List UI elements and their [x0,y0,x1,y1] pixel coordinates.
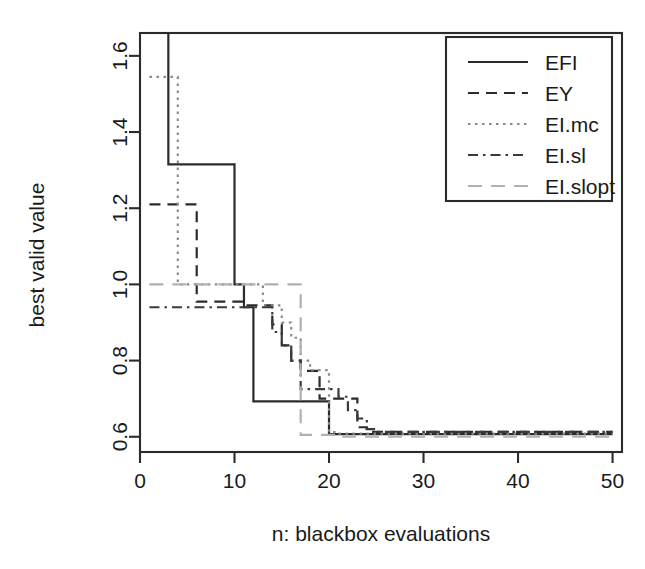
legend-label-efi: EFI [545,51,578,74]
y-tick-label: 0.8 [109,346,132,375]
legend-label-ey: EY [545,82,573,105]
y-tick-label: 1.2 [109,194,132,223]
x-tick-label: 50 [601,469,624,492]
legend-label-ei-slopt: EI.slopt [545,175,615,198]
y-tick-label: 1.6 [109,41,132,70]
x-axis-ticks [140,452,613,463]
x-tick-label: 0 [134,469,146,492]
line-chart: 0.60.81.01.21.41.6 01020304050 n: blackb… [0,0,645,569]
series-line-ei-sl [149,307,612,432]
x-tick-label: 30 [412,469,435,492]
chart-legend: EFIEYEI.mcEI.slEI.slopt [446,37,615,201]
chart-figure: 0.60.81.01.21.41.6 01020304050 n: blackb… [0,0,645,569]
y-axis-title: best valid value [25,183,48,328]
x-axis-title: n: blackbox evaluations [272,522,490,545]
legend-label-ei-mc: EI.mc [545,113,599,136]
legend-label-ei-sl: EI.sl [545,144,586,167]
y-tick-label: 1.4 [109,117,132,147]
y-axis-ticks [129,56,140,437]
series-line-ey [149,204,612,431]
x-axis-tick-labels: 01020304050 [134,469,624,492]
y-tick-label: 0.6 [109,422,132,451]
x-tick-label: 10 [223,469,246,492]
y-axis-tick-labels: 0.60.81.01.21.41.6 [109,41,132,451]
x-tick-label: 20 [317,469,340,492]
x-tick-label: 40 [506,469,529,492]
y-tick-label: 1.0 [109,270,132,299]
